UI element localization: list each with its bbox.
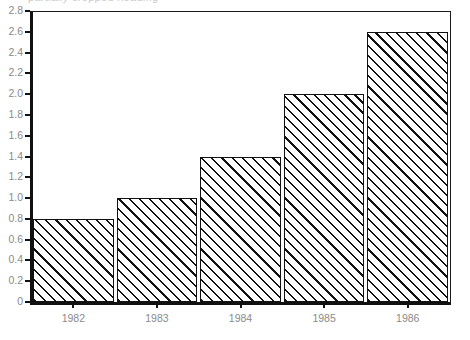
y-axis-tick-label: 2.2 xyxy=(8,66,23,78)
y-axis-tick-label: 1.6 xyxy=(8,129,23,141)
bar xyxy=(200,157,281,303)
y-axis-tick-mark xyxy=(25,72,30,74)
y-axis-tick-label: 2.0 xyxy=(8,87,23,99)
y-axis-tick-mark xyxy=(25,135,30,137)
x-axis: 19821983198419851986 xyxy=(33,302,451,332)
x-axis-tick-mark xyxy=(156,302,158,308)
y-axis-tick-label: 1.4 xyxy=(8,150,23,162)
x-axis-tick-label: 1984 xyxy=(215,312,267,324)
y-axis-tick-mark xyxy=(25,218,30,220)
y-axis-tick-label: 1.0 xyxy=(8,191,23,203)
y-axis-tick-mark xyxy=(25,280,30,282)
x-axis-tick-mark xyxy=(72,302,74,308)
y-axis-tick-mark xyxy=(25,93,30,95)
y-axis-tick-label: 2.8 xyxy=(8,4,23,16)
x-axis-tick-label: 1986 xyxy=(382,312,434,324)
y-axis-tick-mark xyxy=(25,156,30,158)
bar xyxy=(117,198,198,302)
y-axis-tick-label: 1.8 xyxy=(8,108,23,120)
bar-chart: partially cropped heading 00.20.40.60.81… xyxy=(0,0,470,340)
bar xyxy=(33,219,114,302)
y-axis-tick-label: 2.4 xyxy=(8,46,23,58)
bar xyxy=(284,94,365,302)
y-axis-tick-mark xyxy=(25,114,30,116)
y-axis-tick-mark xyxy=(25,176,30,178)
x-axis-tick-mark xyxy=(407,302,409,308)
y-axis-tick-mark xyxy=(25,239,30,241)
y-axis-tick-label: 1.2 xyxy=(8,170,23,182)
chart-title: partially cropped heading xyxy=(28,0,158,3)
x-axis-tick-mark xyxy=(240,302,242,308)
y-axis-tick-mark xyxy=(25,10,30,12)
y-axis-tick-label: 0.2 xyxy=(8,274,23,286)
x-axis-tick-mark xyxy=(323,302,325,308)
y-axis-tick-label: 0.6 xyxy=(8,233,23,245)
y-axis-tick-mark xyxy=(25,31,30,33)
x-axis-tick-label: 1983 xyxy=(131,312,183,324)
y-axis-tick-label: 0.8 xyxy=(8,212,23,224)
y-axis-tick-label: 0.4 xyxy=(8,253,23,265)
y-axis-tick-label: 0 xyxy=(17,295,23,307)
bar xyxy=(367,32,448,302)
y-axis-tick-mark xyxy=(25,259,30,261)
y-axis-tick-label: 2.6 xyxy=(8,25,23,37)
bars-layer xyxy=(33,11,451,302)
y-axis-tick-mark xyxy=(25,197,30,199)
clipped-title-strip: partially cropped heading xyxy=(0,0,470,9)
y-axis-tick-mark xyxy=(25,301,30,303)
x-axis-tick-label: 1982 xyxy=(47,312,99,324)
y-axis: 00.20.40.60.81.01.21.41.61.82.02.22.42.6… xyxy=(0,11,30,302)
x-axis-tick-label: 1985 xyxy=(298,312,350,324)
y-axis-tick-mark xyxy=(25,52,30,54)
